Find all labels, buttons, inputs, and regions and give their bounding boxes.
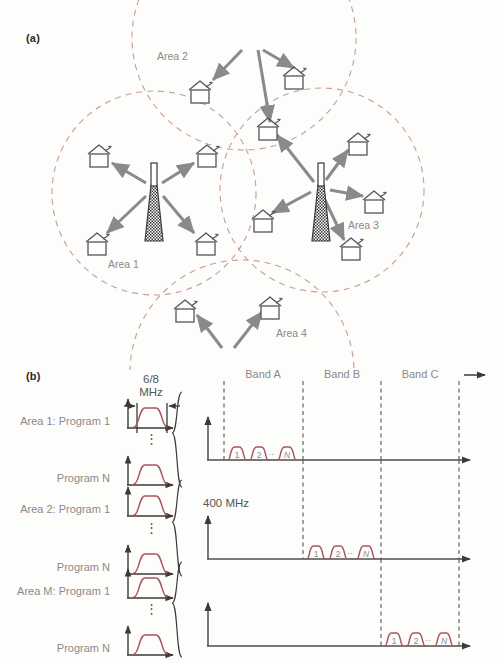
area2-houses: [189, 67, 307, 103]
row2-grouping-brace: [172, 480, 182, 576]
broadcast-tower-icon: [145, 185, 163, 241]
row2-channel-label-N: N: [363, 549, 370, 559]
house-icon: [259, 297, 283, 319]
broadcast-tower-icon: [312, 185, 330, 241]
band-c-label: Band C: [402, 368, 439, 380]
panel-a-network-diagram: Area 1 Area 2 Area 3 Area 4: [0, 0, 498, 370]
row2-area-label: Area 2: Program 1: [20, 503, 110, 515]
row3-channel-label-ellipsis: ··: [425, 635, 431, 645]
row1-wide-axes: [207, 417, 470, 460]
figure-root: (a) (b): [0, 0, 498, 663]
arrow-area3-ne: [326, 150, 348, 180]
area3-label: Area 3: [348, 219, 379, 231]
row2-channel-label-ellipsis: ··: [347, 548, 353, 558]
house-icon: [340, 238, 364, 260]
row2-miniplot-program1: [127, 487, 173, 516]
row2-band-dividers: [224, 460, 459, 559]
band-a-label: Band A: [245, 368, 281, 380]
arrow-area3-e: [330, 190, 363, 196]
house-icon: [86, 233, 110, 255]
row2-miniplot-programN: [127, 545, 173, 574]
row1-vertical-ellipsis: ⋮: [145, 431, 158, 446]
row3-miniplot-programN: [127, 626, 173, 655]
arrow-area2-house3: [258, 50, 270, 122]
arrow-area2-house1: [213, 50, 242, 80]
arrow-area3-w: [272, 192, 311, 213]
cell-circle-area2: [132, 0, 356, 150]
row1-band-dividers: [224, 381, 459, 460]
arrow-area1-sw: [107, 196, 146, 233]
row1-channel-label-N: N: [284, 450, 291, 460]
row1-channel-label-1: 1: [235, 450, 240, 460]
area2-label: Area 2: [157, 50, 188, 62]
house-icon: [347, 133, 371, 155]
band-b-label: Band B: [324, 368, 360, 380]
row1-miniplot-program1: [127, 399, 173, 428]
row2-channel-label-2: 2: [336, 549, 341, 559]
area4-houses: [174, 297, 283, 322]
house-icon: [174, 300, 198, 322]
row1-channel-label-2: 2: [257, 450, 262, 460]
house-icon: [252, 210, 276, 232]
area1-label: Area 1: [108, 258, 139, 270]
tower-mast-icon: [318, 163, 324, 186]
row1-area-label: Area 1: Program 1: [20, 415, 110, 427]
area4-links: [197, 312, 262, 348]
area2-links: [213, 50, 294, 122]
row1-miniplot-programN: [127, 456, 173, 485]
row2-program-last-label: Program N: [57, 561, 110, 573]
channel-width-label-bottom: MHz: [139, 386, 163, 398]
row3-channel-label-1: 1: [392, 636, 397, 646]
house-icon: [363, 191, 387, 213]
arrow-area3-nw: [277, 135, 314, 182]
area4-label: Area 4: [276, 327, 307, 339]
row3-channel-label-N: N: [441, 636, 448, 646]
tower-mast-icon: [151, 163, 157, 186]
arrow-area1-ne: [162, 163, 194, 183]
total-bandwidth-label: 400 MHz: [203, 497, 249, 509]
channel-width-label-top: 6/8: [143, 373, 159, 385]
row3-program-last-label: Program N: [57, 642, 110, 654]
row1-program-last-label: Program N: [57, 472, 110, 484]
house-icon: [88, 145, 112, 167]
panel-b-spectrum-diagram: 6/8 MHz Area 1: Program 1 Program N ⋮ Ba…: [0, 363, 498, 663]
arrow-area2-house2: [263, 50, 294, 68]
row3-area-label: Area M: Program 1: [17, 585, 110, 597]
row2-vertical-ellipsis: ⋮: [145, 520, 158, 535]
cell-circle-area4: [130, 260, 354, 370]
house-icon: [195, 233, 219, 255]
row2-channel-label-1: 1: [314, 549, 319, 559]
row1-channel-label-ellipsis: ··: [268, 449, 274, 459]
house-icon: [196, 145, 220, 167]
house-icon: [283, 67, 307, 89]
arrow-area1-se: [163, 196, 194, 233]
house-icon: [189, 81, 213, 103]
arrow-area4-house1: [197, 315, 222, 348]
row3-vertical-ellipsis: ⋮: [145, 601, 158, 616]
arrow-area1-nw: [112, 163, 146, 183]
row3-grouping-brace: [172, 562, 182, 657]
row3-channel-label-2: 2: [414, 636, 419, 646]
area1-tower: [145, 163, 163, 241]
arrow-area4-house2: [234, 312, 262, 348]
